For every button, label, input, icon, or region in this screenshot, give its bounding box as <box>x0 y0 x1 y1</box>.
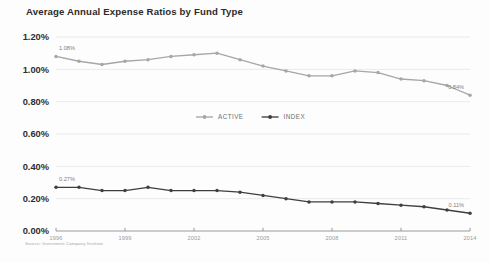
data-point-index <box>376 202 380 206</box>
y-axis-tick-label: 1.00% <box>23 65 50 75</box>
data-point-index <box>192 189 196 193</box>
y-axis-tick-label: 1.20% <box>23 32 50 42</box>
data-point-active <box>169 55 173 59</box>
data-point-index <box>77 186 81 190</box>
data-point-active <box>307 74 311 78</box>
data-point-index <box>422 205 426 209</box>
series-line-index <box>56 187 470 213</box>
x-axis-tick-label: 2002 <box>187 235 200 241</box>
data-point-active <box>330 74 334 78</box>
x-axis-tick-labels: 1996199920022005200820112014 <box>49 235 476 241</box>
data-point-active <box>399 77 403 81</box>
data-point-index <box>445 208 449 212</box>
y-axis-tick-label: 0.40% <box>23 162 50 172</box>
data-point-active <box>422 79 426 83</box>
start-value-label-index: 0.27% <box>59 176 75 182</box>
data-point-index <box>353 200 357 204</box>
data-point-active <box>54 55 58 59</box>
series-line-active <box>56 53 470 95</box>
data-point-index <box>307 200 311 204</box>
gridlines <box>56 37 470 199</box>
data-point-active <box>215 51 219 55</box>
end-value-label-active: 0.84% <box>448 84 464 90</box>
legend-label-index: INDEX <box>284 113 306 120</box>
y-axis-tick-label: 0.20% <box>23 194 50 204</box>
data-point-index <box>100 189 104 193</box>
y-axis-tick-label: 0.60% <box>23 129 50 139</box>
legend-label-active: ACTIVE <box>218 113 243 120</box>
data-point-index <box>261 194 265 198</box>
data-series-layer <box>54 51 472 215</box>
data-point-active <box>284 69 288 73</box>
end-value-label-index: 0.11% <box>449 202 464 208</box>
data-point-active <box>468 93 472 97</box>
chart-legend: ACTIVEINDEX <box>196 113 305 120</box>
legend-swatch-marker <box>203 115 207 119</box>
x-axis-tick-label: 2011 <box>395 235 408 241</box>
data-point-active <box>261 64 265 68</box>
data-point-active <box>376 71 380 75</box>
legend-swatch-marker <box>268 115 272 119</box>
data-point-index <box>169 189 173 193</box>
y-axis-tick-label: 0.00% <box>23 226 50 236</box>
data-point-index <box>399 203 403 207</box>
data-point-index <box>146 186 150 190</box>
data-point-index <box>123 189 127 193</box>
data-point-index <box>215 189 219 193</box>
data-point-index <box>468 211 472 215</box>
chart-figure: Average Annual Expense Ratios by Fund Ty… <box>0 0 490 262</box>
x-axis <box>56 228 470 231</box>
data-point-index <box>54 186 58 190</box>
data-point-active <box>77 60 81 64</box>
source-note: Source: Investment Company Institute <box>25 241 103 246</box>
data-point-active <box>100 63 104 67</box>
data-point-index <box>238 190 242 194</box>
data-point-index <box>330 200 334 204</box>
data-point-active <box>353 69 357 73</box>
data-point-active <box>146 58 150 62</box>
y-axis-tick-label: 0.80% <box>23 97 50 107</box>
x-axis-tick-label: 2008 <box>325 235 338 241</box>
x-axis-tick-label: 2014 <box>463 235 476 241</box>
data-point-active <box>238 58 242 62</box>
data-point-active <box>123 60 127 64</box>
data-point-index <box>284 197 288 201</box>
x-axis-tick-label: 2005 <box>256 235 269 241</box>
data-point-active <box>192 53 196 57</box>
y-axis-tick-labels: 0.00%0.20%0.40%0.60%0.80%1.00%1.20% <box>23 32 50 236</box>
start-value-label-active: 1.08% <box>59 45 75 51</box>
line-chart-plot: 0.00%0.20%0.40%0.60%0.80%1.00%1.20% 1996… <box>0 0 490 262</box>
x-axis-tick-label: 1999 <box>118 235 131 241</box>
